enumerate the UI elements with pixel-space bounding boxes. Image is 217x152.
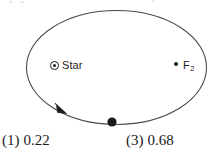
answer-option-1[interactable]: (1)0.22: [2, 131, 50, 149]
answer-option-3-number: (3): [126, 132, 144, 148]
filled-dot-icon: [174, 62, 178, 66]
answer-option-3[interactable]: (3)0.68: [126, 131, 174, 149]
orbit-direction-arrow: [55, 103, 67, 114]
focus2-label-subscript: 2: [190, 64, 194, 73]
answer-options-row: (1)0.22 (3)0.68: [0, 130, 217, 152]
focus2-label-letter: F: [183, 59, 190, 71]
answer-option-1-value: 0.22: [24, 132, 50, 148]
star-marker: Star: [50, 60, 83, 71]
focus2-marker: F2: [174, 60, 194, 71]
figure-root: Star F2 (1)0.22 (3)0.68: [0, 0, 217, 152]
star-label: Star: [62, 60, 83, 71]
focus2-label: F2: [183, 60, 194, 71]
circled-dot-icon: [50, 61, 59, 70]
answer-option-1-number: (1): [2, 132, 20, 148]
planet-dot-icon: [107, 117, 116, 126]
answer-option-3-value: 0.68: [148, 132, 174, 148]
